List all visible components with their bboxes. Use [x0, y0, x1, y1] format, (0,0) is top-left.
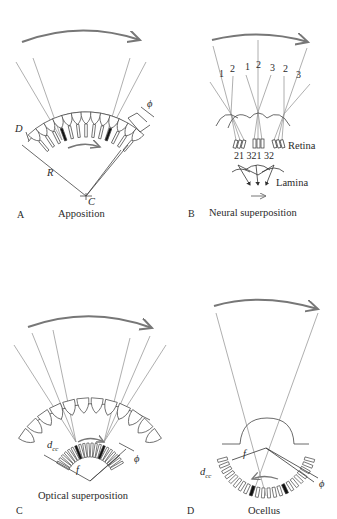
label-radius-r: R — [47, 168, 53, 179]
image-arrow — [252, 477, 278, 480]
num: 1 — [257, 150, 262, 161]
label-ray-3: 3 — [270, 63, 275, 73]
num: 2 — [269, 150, 274, 161]
caption-neural-superposition: Neural superposition — [209, 208, 297, 219]
radius-line — [22, 145, 86, 196]
label-retina: Retina — [288, 141, 315, 152]
label-ray-2: 2 — [230, 64, 235, 74]
label-ray-3: 3 — [296, 70, 301, 80]
panel-letter-c: C — [16, 506, 23, 516]
label-diameter-d: D — [15, 124, 23, 135]
label-receptor-numbers: 21 321 32 — [234, 151, 274, 161]
cc: cc — [52, 445, 58, 453]
label-center-c: C — [88, 197, 95, 208]
panel-d-ocellus — [214, 300, 318, 498]
image-arrow — [68, 144, 100, 148]
label-dcc: dcc — [200, 467, 211, 480]
panel-a-apposition — [16, 30, 154, 200]
label-ray-2: 2 — [256, 60, 261, 70]
label-angle-phi: ϕ — [134, 454, 139, 465]
label-focal-f: f — [76, 465, 79, 476]
label-angle-phi: ϕ — [147, 99, 152, 110]
label-focal-f: f — [243, 449, 246, 460]
retina-rhabdomeres — [233, 139, 285, 148]
label-ray-2: 2 — [283, 64, 288, 74]
caption-optical-superposition: Optical superposition — [38, 491, 128, 502]
num: 1 — [239, 150, 244, 161]
cc: cc — [205, 472, 211, 480]
light-rays — [210, 40, 310, 140]
label-lamina: Lamina — [276, 178, 308, 189]
label-angle-phi: ϕ — [319, 479, 324, 490]
field-of-view-arrow — [22, 30, 140, 42]
label-ray-1: 1 — [245, 62, 250, 72]
label-ray-1: 1 — [219, 69, 224, 79]
field-of-view-arrow — [212, 34, 308, 42]
panel-letter-b: B — [188, 209, 195, 219]
panel-letter-d: D — [187, 506, 194, 516]
image-arrow — [78, 439, 104, 443]
field-of-view-arrow — [28, 316, 152, 328]
caption-apposition: Apposition — [58, 209, 105, 220]
rhabdoms — [57, 443, 124, 470]
field-of-view-arrow — [214, 300, 318, 309]
ommatidia — [19, 398, 162, 447]
ocellus-lens — [222, 418, 309, 444]
label-dcc: dcc — [47, 440, 58, 453]
panel-letter-a: A — [17, 210, 24, 220]
ommatidia — [28, 112, 144, 154]
retina-receptors — [217, 457, 314, 498]
caption-ocellus: Ocellus — [248, 506, 280, 517]
panel-c-optical-superposition — [14, 316, 166, 481]
